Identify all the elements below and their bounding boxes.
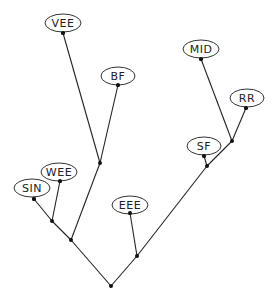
label-text: WEE bbox=[46, 166, 72, 179]
edge-bf-n_vee_bf bbox=[100, 85, 118, 163]
leaf-label-rr: RR bbox=[230, 89, 264, 107]
node-dot-n-mid-rr bbox=[230, 139, 234, 143]
leaf-anchor-dot bbox=[199, 57, 203, 61]
edge-wee-n_sin_wee bbox=[52, 181, 60, 221]
tree-edges bbox=[34, 33, 246, 286]
edge-n_sin_wee-n_left bbox=[52, 221, 71, 240]
leaf-label-wee: WEE bbox=[41, 163, 77, 181]
tree-nodes bbox=[32, 31, 248, 288]
leaf-anchor-dot bbox=[32, 197, 36, 201]
node-dot-root bbox=[109, 284, 113, 288]
leaf-anchor-dot bbox=[58, 179, 62, 183]
node-dot-n-eee bbox=[135, 254, 139, 258]
label-text: MID bbox=[190, 43, 213, 56]
leaf-labels: VEEBFMIDRRSFSINWEEEEE bbox=[14, 14, 264, 215]
node-dot-n-sf bbox=[205, 164, 209, 168]
node-dot-n-sin-wee bbox=[50, 219, 54, 223]
label-text: SIN bbox=[22, 182, 42, 195]
edge-vee-n_vee_bf bbox=[63, 33, 100, 163]
leaf-anchor-dot bbox=[202, 154, 206, 158]
edge-sin-n_sin_wee bbox=[34, 199, 52, 221]
node-dot-n-vee-bf bbox=[98, 161, 102, 165]
leaf-label-mid: MID bbox=[183, 40, 219, 58]
edge-n_eee-root bbox=[111, 256, 137, 286]
edge-eee-n_eee bbox=[130, 213, 137, 256]
leaf-anchor-dot bbox=[61, 31, 65, 35]
tree-diagram: VEEBFMIDRRSFSINWEEEEE bbox=[0, 0, 277, 298]
edge-n_sf-n_eee bbox=[137, 166, 207, 256]
label-text: VEE bbox=[52, 17, 75, 30]
leaf-label-vee: VEE bbox=[45, 14, 81, 32]
label-text: SF bbox=[197, 140, 211, 153]
label-text: BF bbox=[111, 70, 126, 83]
label-text: EEE bbox=[119, 199, 141, 212]
leaf-anchor-dot bbox=[128, 211, 132, 215]
label-text: RR bbox=[239, 92, 255, 105]
edge-mid-n_mid_rr bbox=[201, 59, 232, 141]
leaf-label-sin: SIN bbox=[14, 179, 50, 197]
leaf-anchor-dot bbox=[244, 106, 248, 110]
edge-rr-n_mid_rr bbox=[232, 108, 246, 141]
node-dot-n-left bbox=[69, 238, 73, 242]
leaf-anchor-dot bbox=[116, 83, 120, 87]
leaf-label-sf: SF bbox=[187, 137, 221, 155]
leaf-label-bf: BF bbox=[101, 67, 135, 85]
edge-n_left-root bbox=[71, 240, 111, 286]
